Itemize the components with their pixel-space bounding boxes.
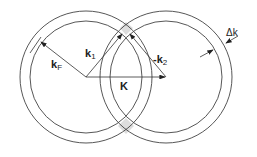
fermi-sphere-diagram: kF k1 -k2 K Δk — [0, 0, 257, 157]
kF-vector — [41, 42, 86, 77]
kF-label: kF — [51, 58, 62, 72]
dk-arrow-inner — [200, 50, 213, 57]
bottom-overlap-shade — [118, 118, 134, 134]
dk-label: Δk — [226, 27, 239, 38]
k1-label: k1 — [85, 47, 96, 61]
k2-label: -k2 — [153, 53, 168, 67]
K-label: K — [120, 80, 128, 92]
